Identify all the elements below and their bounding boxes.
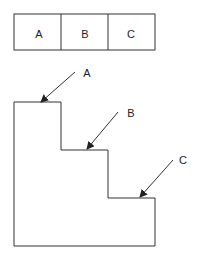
- arrow-label-c: C: [179, 154, 187, 166]
- staircase-shape: [14, 102, 155, 246]
- arrow-b: [87, 112, 118, 149]
- arrow-c: [140, 160, 173, 197]
- diagram-canvas: A B C A B C: [0, 0, 197, 259]
- box-label-c: C: [127, 28, 135, 40]
- arrow-label-b: B: [127, 107, 134, 119]
- box-label-a: A: [35, 28, 43, 40]
- top-box-row: A B C: [14, 14, 155, 50]
- arrow-label-a: A: [83, 67, 91, 79]
- box-label-b: B: [81, 28, 88, 40]
- arrow-a: [41, 72, 75, 102]
